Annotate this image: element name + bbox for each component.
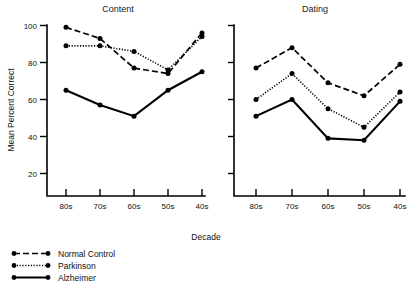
y-ticks-left	[40, 26, 47, 174]
data-point	[362, 125, 367, 130]
series-normal-control-dating	[254, 45, 403, 98]
series-parkinson-dating	[254, 71, 403, 130]
series-alzheimer-dating	[254, 97, 403, 143]
x-tick-label: 50s	[358, 202, 371, 211]
x-ticks-right	[256, 189, 400, 196]
axes-left	[47, 25, 205, 196]
y-axis-title: Mean Percent Correct	[6, 68, 16, 152]
x-tick-label: 80s	[250, 202, 263, 211]
y-tick-label: 60	[28, 96, 37, 105]
legend-swatch-dotted-icon	[12, 263, 51, 268]
data-point	[254, 66, 259, 71]
two-panel-line-chart: Content 100 80 60 40 20 80s 70	[0, 0, 416, 285]
data-point	[398, 99, 403, 104]
data-point	[200, 34, 205, 39]
data-point	[326, 136, 331, 141]
data-point	[132, 66, 137, 71]
data-point	[326, 106, 331, 111]
y-ticks-right	[228, 26, 234, 174]
data-point	[362, 93, 367, 98]
x-axis-title: Decade	[191, 232, 221, 242]
data-point	[398, 90, 403, 95]
series-alzheimer-content	[64, 69, 205, 118]
data-point	[132, 49, 137, 54]
data-point	[362, 138, 367, 143]
panel-content: Content 100 80 60 40 20 80s 70	[24, 4, 209, 211]
x-tick-label: 60s	[322, 202, 335, 211]
data-point	[98, 36, 103, 41]
data-point	[64, 88, 69, 93]
data-point	[64, 25, 69, 30]
data-point	[166, 67, 171, 72]
legend: Normal Control Parkinson Alzheimer	[12, 249, 116, 283]
legend-label-alzheimer: Alzheimer	[58, 273, 96, 283]
axes-right	[234, 25, 405, 196]
y-tick-label: 80	[28, 59, 37, 68]
legend-item-normal-control: Normal Control	[12, 249, 116, 259]
x-tick-labels-right: 80s 70s 60s 50s 40s	[250, 202, 407, 211]
x-tick-label: 80s	[60, 202, 73, 211]
x-tick-label: 40s	[394, 202, 407, 211]
data-point	[200, 69, 205, 74]
x-ticks-left	[66, 189, 202, 196]
y-tick-labels-left: 100 80 60 40 20	[24, 22, 38, 179]
x-tick-label: 40s	[196, 202, 209, 211]
panel-dating: Dating 80s 70s 60s 50s 40s	[228, 4, 406, 211]
data-point	[166, 88, 171, 93]
x-tick-label: 60s	[128, 202, 141, 211]
data-point	[290, 71, 295, 76]
x-tick-label: 50s	[162, 202, 175, 211]
data-point	[64, 43, 69, 48]
legend-label-parkinson: Parkinson	[58, 261, 96, 271]
legend-swatch-dashed-icon	[12, 251, 51, 256]
data-point	[254, 114, 259, 119]
panel-title-content: Content	[102, 4, 134, 14]
y-tick-label: 40	[28, 133, 37, 142]
data-point	[290, 45, 295, 50]
data-point	[326, 80, 331, 85]
data-point	[290, 97, 295, 102]
data-point	[398, 62, 403, 67]
panel-title-dating: Dating	[302, 4, 328, 14]
legend-item-parkinson: Parkinson	[12, 261, 96, 271]
data-point	[98, 43, 103, 48]
legend-item-alzheimer: Alzheimer	[12, 273, 96, 283]
x-tick-labels-left: 80s 70s 60s 50s 40s	[60, 202, 209, 211]
data-point	[98, 103, 103, 108]
y-tick-label: 20	[28, 170, 37, 179]
data-point	[132, 114, 137, 119]
y-tick-label: 100	[24, 22, 38, 31]
data-point	[254, 97, 259, 102]
x-tick-label: 70s	[94, 202, 107, 211]
legend-label-normal-control: Normal Control	[58, 249, 115, 259]
x-tick-label: 70s	[286, 202, 299, 211]
legend-swatch-solid-icon	[12, 275, 51, 280]
